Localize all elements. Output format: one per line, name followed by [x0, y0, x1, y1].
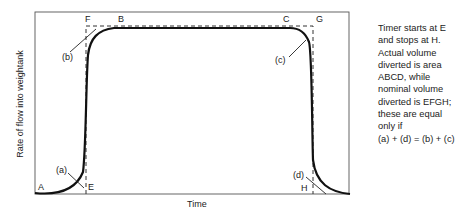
- region-label-d: (d): [293, 170, 304, 180]
- caption-line: diverted is EFGH;: [378, 96, 458, 108]
- caption-line: Actual volume: [378, 47, 458, 59]
- x-axis-label: Time: [187, 199, 207, 209]
- region-label-c: (c): [275, 55, 286, 65]
- caption-line: these are equal: [378, 108, 458, 120]
- caption-equation: (a) + (d) = (b) + (c): [378, 133, 458, 145]
- region-label-a: (a): [56, 165, 67, 175]
- point-label-e: E: [88, 182, 94, 192]
- nominal-volume-rectangle: [86, 26, 313, 194]
- point-label-f: F: [85, 14, 91, 24]
- plot-frame: [35, 12, 349, 194]
- point-label-c: C: [283, 14, 290, 24]
- region-label-b: (b): [62, 52, 73, 62]
- caption-line: ABCD, while: [378, 71, 458, 83]
- point-label-g: G: [316, 14, 323, 24]
- point-label-a: A: [38, 182, 44, 192]
- y-axis-label: Rate of flow into weightank: [15, 50, 25, 158]
- point-label-b: B: [118, 14, 124, 24]
- caption-note: Timer starts at E and stops at H. Actual…: [378, 22, 458, 145]
- caption-line: Timer starts at E: [378, 22, 458, 34]
- caption-line: nominal volume: [378, 83, 458, 95]
- caption-line: only if: [378, 120, 458, 132]
- caption-line: diverted is area: [378, 59, 458, 71]
- leader-c: [289, 40, 306, 57]
- leader-d: [306, 177, 326, 194]
- caption-line: and stops at H.: [378, 34, 458, 46]
- point-label-h: H: [301, 183, 308, 193]
